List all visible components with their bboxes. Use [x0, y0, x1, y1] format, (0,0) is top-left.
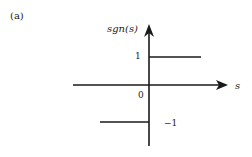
tick-label-one: 1	[135, 52, 141, 61]
tick-label-negative-one: −1	[164, 119, 177, 128]
panel-label: (a)	[10, 11, 24, 21]
tick-label-origin: 0	[138, 91, 144, 100]
x-axis-label: s	[235, 81, 240, 91]
signum-function-diagram: (a) sgn(s) 1 0 s −1	[0, 0, 252, 157]
y-axis-label: sgn(s)	[107, 24, 138, 34]
